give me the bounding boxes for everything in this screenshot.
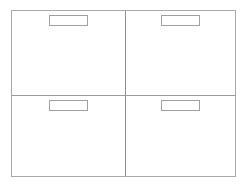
panel-label-box bbox=[161, 100, 200, 111]
panel-label-box bbox=[49, 15, 88, 26]
panel-label-box bbox=[161, 15, 200, 26]
vertical-divider bbox=[125, 11, 126, 176]
panel-grid bbox=[11, 10, 236, 177]
panel-label-box bbox=[49, 100, 88, 111]
horizontal-divider bbox=[12, 95, 235, 96]
